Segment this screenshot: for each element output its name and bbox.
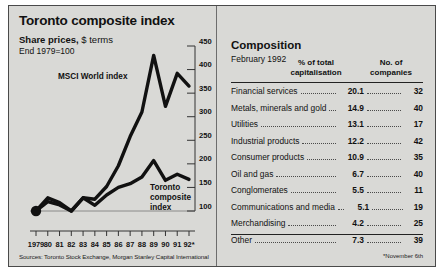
row-pct-capitalisation: 5.1 <box>346 202 369 212</box>
row-pct-capitalisation: 7.3 <box>338 235 364 245</box>
leader-dots-secondary <box>367 225 401 226</box>
y-tick-label: 150 <box>199 178 212 187</box>
y-tick-label: 450 <box>199 37 212 46</box>
leader-dots <box>329 110 336 111</box>
row-label: Communications and media <box>231 202 335 212</box>
x-tick-label: 85 <box>102 240 110 249</box>
leader-dots <box>288 225 336 226</box>
leader-dots-secondary <box>372 209 403 210</box>
row-label: Conglomerates <box>231 185 288 195</box>
table-row: Consumer products10.935 <box>231 152 423 169</box>
composition-table-body: Financial services20.132Metals, minerals… <box>231 86 423 251</box>
table-top-rule <box>231 82 423 83</box>
leader-dots <box>276 176 336 177</box>
leader-dots-secondary <box>367 93 401 94</box>
y-tick-label: 200 <box>199 154 212 163</box>
leader-dots-secondary <box>367 110 401 111</box>
x-axis-ticks <box>36 231 189 236</box>
x-tick-label: 87 <box>126 240 134 249</box>
row-company-count: 11 <box>403 185 423 195</box>
column-header-companies-line1: No. of <box>380 58 403 67</box>
y-tick-label: 100 <box>199 202 212 211</box>
leader-dots-secondary <box>367 159 401 160</box>
y-axis-tick-labels: 100150200250300350400450 <box>199 37 212 211</box>
row-pct-capitalisation: 14.9 <box>338 103 364 113</box>
series-label-toronto-line3: index <box>150 203 171 212</box>
chart-sources-note: Sources: Toronto Stock Exchange, Morgan … <box>19 253 209 260</box>
footnote: *November 6th <box>383 253 423 259</box>
row-pct-capitalisation: 10.9 <box>338 152 364 162</box>
x-tick-label: 88 <box>138 240 146 249</box>
x-tick-label: 92* <box>183 240 194 249</box>
row-pct-capitalisation: 13.1 <box>338 119 364 129</box>
column-header-capitalisation-line2: capitalisation <box>290 68 341 77</box>
leader-dots <box>301 93 336 94</box>
row-label: Merchandising <box>231 218 285 228</box>
row-pct-capitalisation: 4.2 <box>338 218 364 228</box>
line-chart-plot: 100150200250300350400450 197980818283848… <box>9 6 217 268</box>
column-header-capitalisation-line1: % of total <box>298 58 334 67</box>
start-point-marker <box>31 206 41 216</box>
table-row: Metals, minerals and gold14.940 <box>231 103 423 120</box>
y-tick-label: 300 <box>199 107 212 116</box>
row-label: Oil and gas <box>231 169 273 179</box>
column-header-companies-line2: companies <box>370 68 412 77</box>
row-label: Utilities <box>231 119 258 129</box>
series-label-toronto: Toronto composite index <box>150 183 191 213</box>
x-axis-tick-labels: 197980818283848586878889909192* <box>28 240 195 249</box>
leader-dots-secondary <box>367 143 401 144</box>
row-company-count: 35 <box>403 152 423 162</box>
leader-dots <box>307 159 336 160</box>
x-tick-label: 90 <box>161 240 169 249</box>
table-row: Industrial products12.242 <box>231 136 423 153</box>
y-tick-label: 400 <box>199 60 212 69</box>
row-company-count: 40 <box>403 169 423 179</box>
leader-dots-secondary <box>367 176 401 177</box>
series-label-toronto-line1: Toronto <box>150 183 180 192</box>
leader-dots <box>302 143 336 144</box>
chart-figure: Toronto composite index Share prices, $ … <box>8 5 436 267</box>
leader-dots-secondary <box>367 242 401 243</box>
x-tick-label: 81 <box>55 240 63 249</box>
row-pct-capitalisation: 20.1 <box>338 86 364 96</box>
x-tick-label: 91 <box>173 240 181 249</box>
x-tick-label: 89 <box>150 240 158 249</box>
x-tick-label: 82 <box>67 240 75 249</box>
series-label-msci: MSCI World index <box>58 72 127 82</box>
column-header-capitalisation: % of total capitalisation <box>273 58 359 78</box>
row-company-count: 25 <box>403 218 423 228</box>
row-company-count: 42 <box>403 136 423 146</box>
leader-dots <box>338 209 344 210</box>
table-row: Oil and gas6.740 <box>231 169 423 186</box>
table-row: Conglomerates5.511 <box>231 185 423 202</box>
leader-dots-secondary <box>367 126 401 127</box>
x-tick-label: 80 <box>44 240 52 249</box>
leader-dots-secondary <box>367 192 401 193</box>
table-row: Merchandising4.225 <box>231 218 423 235</box>
composition-panel: Composition February 1992 % of total cap… <box>217 6 435 266</box>
row-pct-capitalisation: 12.2 <box>338 136 364 146</box>
table-row: Communications and media5.119 <box>231 202 423 219</box>
x-tick-label: 83 <box>79 240 87 249</box>
row-label: Consumer products <box>231 152 304 162</box>
table-bottom-rule <box>231 234 423 235</box>
x-tick-label: 84 <box>91 240 100 249</box>
table-row: Utilities13.117 <box>231 119 423 136</box>
x-tick-label: 86 <box>114 240 122 249</box>
row-label: Other <box>231 235 252 245</box>
row-company-count: 40 <box>403 103 423 113</box>
row-company-count: 19 <box>405 202 423 212</box>
x-tick-label: 1979 <box>28 240 44 249</box>
leader-dots <box>255 242 336 243</box>
table-row: Financial services20.132 <box>231 86 423 103</box>
table-column-headers: % of total capitalisation No. of compani… <box>273 58 423 78</box>
column-header-companies: No. of companies <box>359 58 423 78</box>
row-company-count: 17 <box>403 119 423 129</box>
chart-panel: Toronto composite index Share prices, $ … <box>9 6 217 266</box>
composition-title: Composition <box>231 39 301 51</box>
series-label-toronto-line2: composite <box>150 193 191 202</box>
row-company-count: 39 <box>403 235 423 245</box>
leader-dots <box>261 126 336 127</box>
row-label: Industrial products <box>231 136 299 146</box>
row-label: Metals, minerals and gold <box>231 103 326 113</box>
